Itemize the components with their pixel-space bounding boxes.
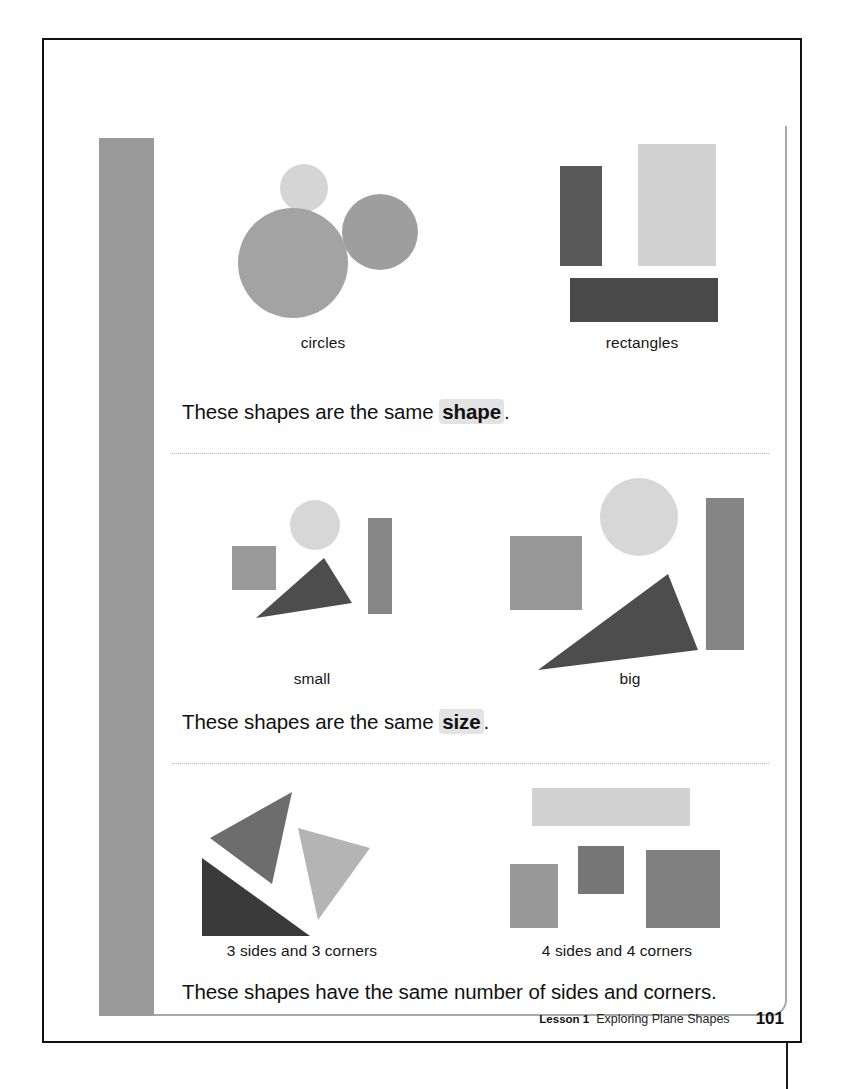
figure-stage-circles <box>218 126 428 331</box>
big-circle <box>600 478 678 556</box>
dark-triangle-bottom <box>202 858 310 936</box>
grey-square-middle <box>578 846 624 894</box>
small-light-circle <box>280 164 328 212</box>
big-triangle <box>538 574 698 670</box>
statement-same-size: These shapes are the same size. <box>182 710 489 734</box>
statement-same-sides-corners: These shapes have the same number of sid… <box>182 980 717 1004</box>
keyword-shape: shape <box>439 399 504 424</box>
grey-rectangle-left <box>510 864 558 928</box>
small-bar <box>368 518 392 614</box>
page-footer: Lesson 1 Exploring Plane Shapes 101 <box>42 1004 802 1034</box>
small-circle <box>290 500 340 550</box>
figure-group-rectangles: rectangles <box>542 126 742 331</box>
caption-small: small <box>212 670 412 688</box>
figure-stage-triangles <box>202 782 402 942</box>
large-grey-circle <box>238 208 348 318</box>
figure-stage-quadrilaterals <box>510 782 724 942</box>
figure-stage-big <box>510 478 750 674</box>
footer-page-number: 101 <box>756 1009 784 1029</box>
section-same-size: small big These shapes are the same <box>154 478 787 710</box>
tall-light-rectangle <box>638 144 716 266</box>
wide-dark-rectangle <box>570 278 718 322</box>
figure-group-quadrilaterals: 4 sides and 4 corners <box>510 782 724 942</box>
footer-lesson-title: Exploring Plane Shapes <box>596 1012 729 1026</box>
caption-rectangles: rectangles <box>542 334 742 352</box>
statement-prefix-shape: These shapes are the same <box>182 400 439 423</box>
figure-group-triangles: 3 sides and 3 corners <box>202 782 402 942</box>
figure-stage-rectangles <box>542 126 742 331</box>
section-same-shape: circles rectangles These shapes are the … <box>154 126 787 376</box>
big-bar <box>706 498 744 650</box>
statement-same-shape: These shapes are the same shape. <box>182 400 510 424</box>
caption-three-sides: 3 sides and 3 corners <box>202 942 402 960</box>
section-same-sides-corners: 3 sides and 3 corners 4 sides and 4 corn… <box>154 782 787 980</box>
figure-group-small: small <box>212 478 412 668</box>
chapter-side-tab <box>99 138 154 1016</box>
statement-suffix-size: . <box>484 710 490 733</box>
figure-stage-small <box>212 478 412 668</box>
wide-light-rectangle <box>532 788 690 826</box>
figure-group-big: big <box>510 478 750 674</box>
statement-prefix-size: These shapes are the same <box>182 710 439 733</box>
statement-suffix-shape: . <box>504 400 510 423</box>
divider-after-size <box>172 763 769 764</box>
figure-group-circles: circles <box>218 126 428 331</box>
small-triangle <box>256 558 352 618</box>
caption-big: big <box>510 670 750 688</box>
caption-four-sides: 4 sides and 4 corners <box>510 942 724 960</box>
statement-text-sides-corners: These shapes have the same number of sid… <box>182 980 717 1003</box>
keyword-size: size <box>439 709 483 734</box>
caption-circles: circles <box>218 334 428 352</box>
divider-after-shape <box>172 453 769 454</box>
grey-square-right <box>646 850 720 928</box>
page-spine-rule <box>786 1043 788 1089</box>
lesson-content-card: circles rectangles These shapes are the … <box>154 126 787 1016</box>
tall-dark-rectangle <box>560 166 602 266</box>
medium-grey-circle <box>342 194 418 270</box>
printed-page-frame: circles rectangles These shapes are the … <box>42 38 802 1043</box>
footer-lesson-label: Lesson 1 <box>539 1013 589 1025</box>
